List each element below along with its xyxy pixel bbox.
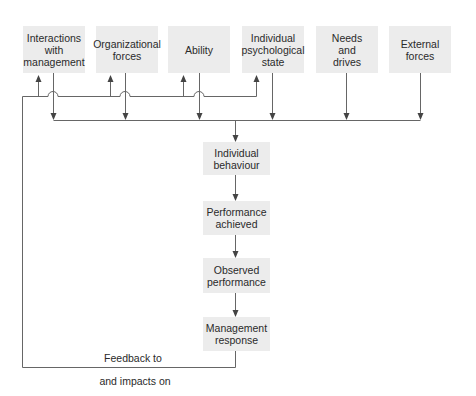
box-performance-achieved: Performance achieved xyxy=(203,201,270,235)
box-label: Ability xyxy=(185,44,213,56)
box-observed-performance: Observed performance xyxy=(203,258,270,293)
label-line: External xyxy=(401,38,440,50)
label-line: state xyxy=(262,56,285,68)
diagram-canvas: Interactions with management Organizatio… xyxy=(0,0,476,396)
label-line: Interactions xyxy=(27,32,81,44)
label-line: Management xyxy=(206,322,267,334)
box-interactions-with-management: Interactions with management xyxy=(23,26,85,73)
label-line: drives xyxy=(333,56,361,68)
box-label: Interactions with management xyxy=(23,32,84,68)
label-line: psychological xyxy=(241,44,304,56)
label-line: Individual xyxy=(251,32,295,44)
label-line: Individual xyxy=(214,147,258,159)
label-line: performance xyxy=(207,276,266,288)
box-label: Performance achieved xyxy=(206,206,266,230)
box-label: Organizational forces xyxy=(93,38,161,62)
label-line: with xyxy=(45,44,64,56)
label-line: behaviour xyxy=(213,159,259,171)
label-line: response xyxy=(215,334,258,346)
box-label: External forces xyxy=(401,38,440,62)
box-label: Individual psychological state xyxy=(241,32,304,68)
box-ability: Ability xyxy=(168,26,230,73)
feedback-label-line1: Feedback to xyxy=(88,352,178,364)
box-individual-behaviour: Individual behaviour xyxy=(203,142,270,175)
label-line: Performance xyxy=(206,206,266,218)
box-needs-and-drives: Needs and drives xyxy=(316,26,378,73)
label-line: Organizational xyxy=(93,38,161,50)
label-line: achieved xyxy=(215,218,257,230)
box-label: Management response xyxy=(206,322,267,346)
label-line: Observed xyxy=(214,264,260,276)
label-line: and xyxy=(338,44,356,56)
label-line: management xyxy=(23,56,84,68)
box-organizational-forces: Organizational forces xyxy=(96,26,158,73)
box-management-response: Management response xyxy=(203,317,270,351)
feedback-label-line2: and impacts on xyxy=(80,375,190,387)
label-line: Needs xyxy=(332,32,362,44)
label-line: forces xyxy=(406,50,435,62)
box-external-forces: External forces xyxy=(389,26,451,73)
box-label: Observed performance xyxy=(207,264,266,288)
box-label: Needs and drives xyxy=(332,32,362,68)
box-individual-psychological-state: Individual psychological state xyxy=(242,26,304,73)
box-label: Individual behaviour xyxy=(213,147,259,171)
label-line: forces xyxy=(113,50,142,62)
